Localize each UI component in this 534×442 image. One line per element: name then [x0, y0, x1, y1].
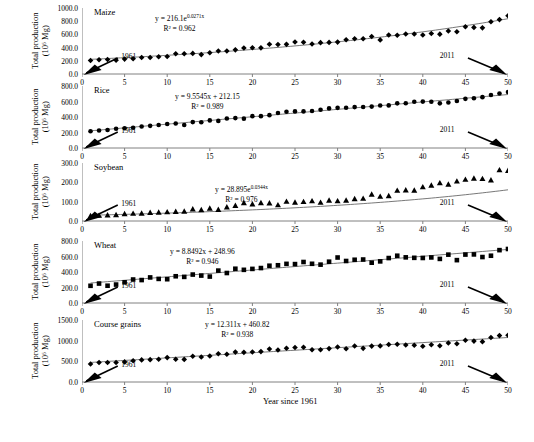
data-point — [369, 191, 375, 196]
chart-panel-soybean: Total production(10⁶ Mg)0.0100.0200.0300… — [0, 163, 534, 243]
data-point — [164, 355, 170, 361]
y-axis-label: Total production(10⁶ Mg) — [2, 320, 80, 382]
data-point — [165, 277, 170, 282]
data-point — [386, 103, 391, 108]
data-point — [292, 345, 298, 351]
end-year-note: 2011 — [440, 359, 455, 368]
data-point — [352, 257, 357, 262]
data-point — [122, 211, 128, 216]
data-point — [445, 181, 451, 186]
x-tick-label: 40 — [419, 386, 427, 395]
data-point — [421, 256, 426, 261]
end-year-arrowhead — [489, 373, 507, 384]
end-year-note: 2011 — [440, 125, 455, 134]
data-point — [480, 95, 485, 100]
y-axis-label-line1: Total production — [30, 323, 40, 379]
data-point — [309, 41, 315, 47]
data-point — [114, 282, 119, 287]
data-point — [208, 118, 213, 123]
data-point — [403, 342, 409, 348]
x-tick-label: 5 — [123, 225, 127, 234]
x-tick-label: 40 — [419, 152, 427, 161]
data-point — [335, 106, 340, 111]
chart-panel-course-grains: Total production(10⁶ Mg)0.0500.01000.015… — [0, 320, 534, 404]
data-point — [361, 105, 366, 110]
data-point — [420, 343, 426, 349]
y-tick-label: 0.0 — [34, 378, 78, 387]
data-point — [147, 209, 153, 214]
data-point — [216, 119, 221, 124]
data-point — [369, 260, 374, 265]
x-tick-label: 45 — [462, 225, 470, 234]
y-tick-label: 200.0 — [34, 56, 78, 65]
y-tick-label: 200.0 — [34, 283, 78, 292]
data-point — [377, 193, 383, 198]
data-point — [216, 48, 222, 54]
data-point — [395, 253, 400, 258]
data-point — [438, 257, 443, 262]
data-point — [181, 208, 187, 213]
data-point — [301, 199, 307, 204]
data-point — [446, 100, 451, 105]
x-tick-label: 30 — [334, 225, 342, 234]
chart-panel-wheat: Total production(10⁶ Mg)0.0200.0400.0600… — [0, 241, 534, 325]
data-point — [489, 93, 494, 98]
y-axis-label-line1: Total production — [30, 164, 40, 220]
data-point — [327, 259, 332, 264]
data-point — [284, 109, 289, 114]
data-point — [156, 54, 162, 60]
data-point — [463, 252, 468, 257]
data-point — [267, 113, 272, 118]
x-tick-label: 10 — [163, 225, 171, 234]
data-point — [199, 273, 204, 278]
x-tick-label: 40 — [419, 307, 427, 316]
data-point — [463, 24, 469, 30]
end-year-note: 2011 — [440, 280, 455, 289]
start-year-note: 1961 — [121, 281, 136, 290]
data-point — [258, 45, 264, 51]
data-point — [181, 51, 187, 57]
data-point — [394, 187, 400, 192]
y-tick-label: 300.0 — [34, 159, 78, 168]
x-tick-label: 40 — [419, 225, 427, 234]
data-point — [497, 91, 502, 96]
x-tick-label: 25 — [291, 307, 299, 316]
data-point — [148, 124, 153, 129]
data-point — [454, 341, 460, 347]
data-point — [420, 184, 426, 189]
data-point — [352, 105, 357, 110]
data-point — [130, 210, 136, 215]
data-point — [216, 351, 222, 357]
data-point — [114, 126, 119, 131]
data-point — [259, 114, 264, 119]
start-year-arrowhead — [84, 373, 102, 384]
data-point — [88, 129, 93, 134]
data-point — [284, 262, 289, 267]
start-year-arrowhead — [84, 294, 102, 305]
y-tick-label: 800.0 — [34, 82, 78, 91]
start-year-note: 1961 — [121, 360, 136, 369]
data-point — [173, 121, 178, 126]
end-year-note: 2011 — [440, 198, 455, 207]
data-point — [488, 335, 494, 341]
y-tick-label: 200.0 — [34, 178, 78, 187]
data-point — [454, 29, 460, 35]
data-point — [429, 99, 434, 104]
y-tick-label: 600.0 — [34, 30, 78, 39]
data-point — [242, 268, 247, 273]
data-point — [190, 353, 196, 359]
data-point — [318, 262, 323, 267]
data-point — [344, 105, 349, 110]
chart-panel-maize: Total production(10⁶ Mg)0.0200.0400.0600… — [0, 8, 534, 96]
data-point — [318, 347, 324, 353]
data-point — [429, 342, 435, 348]
data-point — [275, 202, 281, 207]
data-point — [241, 200, 247, 205]
data-point — [438, 101, 443, 106]
y-axis-label-line2: (10⁶ Mg) — [41, 323, 51, 379]
x-tick-label: 30 — [334, 307, 342, 316]
data-point — [412, 256, 417, 261]
x-tick-label: 30 — [334, 152, 342, 161]
data-point — [377, 37, 383, 43]
data-point — [428, 182, 434, 187]
